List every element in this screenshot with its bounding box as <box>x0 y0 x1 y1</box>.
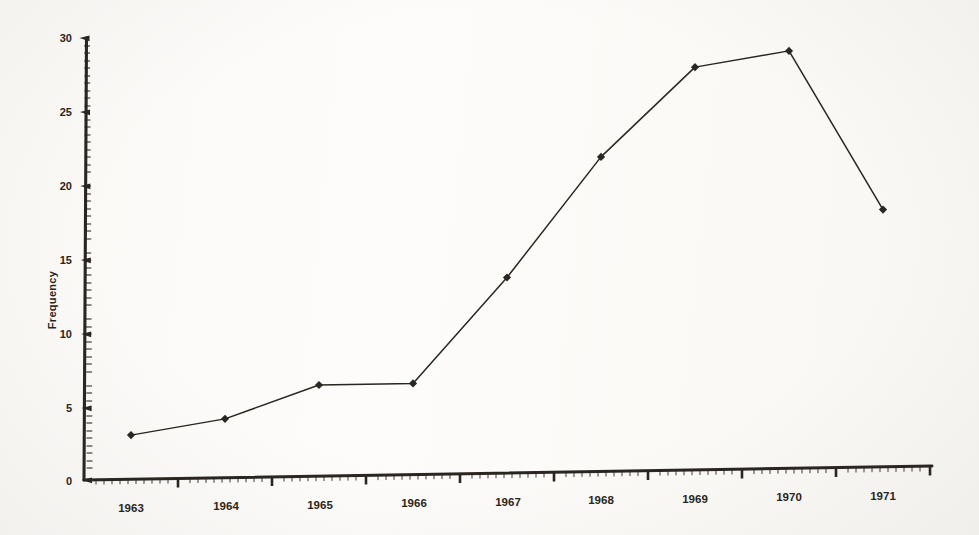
y-tick-label-25: 25 <box>60 106 72 118</box>
y-tick-label-0: 0 <box>66 475 72 487</box>
series-line-frequency <box>131 51 883 435</box>
x-tick-label-1966: 1966 <box>401 497 427 509</box>
line-chart: 30 25 20 15 10 5 0 Frequency <box>0 0 979 535</box>
y-tick-label-10: 10 <box>60 328 72 340</box>
x-tick-label-1971: 1971 <box>870 490 896 502</box>
x-tick-label-1964: 1964 <box>213 500 239 512</box>
x-axis <box>84 466 932 488</box>
series-frequency <box>127 47 887 439</box>
x-tick-label-1968: 1968 <box>588 494 614 506</box>
data-point-marker <box>879 205 887 213</box>
y-axis-title: Frequency <box>46 270 58 329</box>
y-axis <box>80 35 93 483</box>
data-point-marker <box>315 381 323 389</box>
series-markers-frequency <box>127 47 887 439</box>
x-tick-label-1963: 1963 <box>118 502 144 514</box>
y-tick-label-20: 20 <box>60 180 72 192</box>
x-tick-label-1967: 1967 <box>495 496 521 508</box>
data-point-marker <box>221 415 229 423</box>
y-axis-tick-labels: 30 25 20 15 10 5 0 <box>60 32 72 487</box>
x-tick-label-1969: 1969 <box>682 493 708 505</box>
x-tick-label-1965: 1965 <box>307 499 333 511</box>
chart-page: 30 25 20 15 10 5 0 Frequency <box>0 0 979 535</box>
data-point-marker <box>785 47 793 55</box>
data-point-marker <box>127 431 135 439</box>
y-tick-label-5: 5 <box>66 402 72 414</box>
x-tick-label-1970: 1970 <box>776 491 802 503</box>
x-axis-tick-labels: 1963 1964 1965 1966 1967 1968 1969 1970 … <box>118 490 896 514</box>
y-tick-label-30: 30 <box>60 32 72 44</box>
y-tick-label-15: 15 <box>60 254 72 266</box>
